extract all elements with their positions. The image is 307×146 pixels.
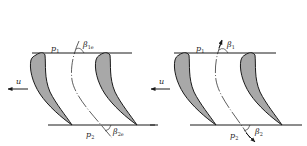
left-outlet-pressure-label: p2 [86, 130, 94, 140]
right-blade-2 [240, 53, 282, 125]
right-inlet-angle-arc [219, 49, 228, 53]
left-blade-1 [30, 53, 72, 125]
right-inlet-angle-label: β1 [226, 40, 235, 50]
blade-cascade-diagram: u p1 β1e p2 β2e u p1 β1 p2 β2 [0, 0, 307, 146]
right-inlet-pressure-label: p1 [196, 44, 204, 54]
left-blade-2 [95, 53, 137, 125]
right-blade-1 [174, 53, 216, 125]
left-cascade-panel [8, 41, 155, 138]
right-outlet-pressure-label: p2 [230, 131, 238, 141]
left-inlet-pressure-label: p1 [51, 44, 59, 54]
left-outlet-angle-label: β2e [112, 127, 124, 137]
right-outlet-angle-label: β2 [254, 127, 263, 137]
right-outlet-flow-arrow [246, 133, 255, 142]
right-cascade-panel [150, 40, 302, 142]
left-velocity-label: u [16, 77, 21, 86]
right-inlet-flow-arrow [219, 40, 222, 48]
left-inlet-angle-label: β1e [82, 40, 94, 50]
right-velocity-label: u [159, 77, 164, 86]
